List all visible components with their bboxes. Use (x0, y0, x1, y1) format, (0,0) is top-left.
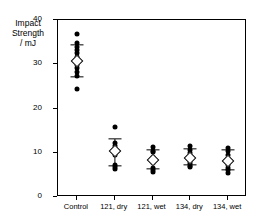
x-tick-3 (189, 196, 190, 200)
y-tick-label-30: 30 (0, 59, 42, 67)
y-tick-label-20: 20 (0, 104, 42, 112)
data-group-4 (58, 20, 245, 195)
x-tick-2 (152, 196, 153, 200)
group-mean-marker-4 (222, 154, 235, 167)
y-tick-label-40: 40 (0, 15, 42, 23)
data-point (226, 171, 231, 176)
y-tick-label-0: 0 (0, 192, 42, 200)
y-axis: 010203040 (0, 0, 57, 223)
x-tick-4 (227, 196, 228, 200)
plot-area (57, 19, 246, 196)
impact-strength-dot-plot: Impact Strength / mJ 010203040 Control12… (0, 0, 261, 223)
y-tick-label-10: 10 (0, 148, 42, 156)
x-tick-1 (114, 196, 115, 200)
x-axis-label-4: 134, wet (204, 202, 250, 211)
x-tick-0 (76, 196, 77, 200)
